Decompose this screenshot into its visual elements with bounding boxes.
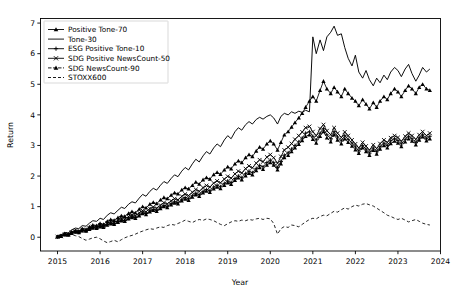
legend-label: Tone-30 [67,35,97,44]
x-tick-label: 2022 [346,257,365,266]
legend-label: Positive Tone-70 [68,25,128,34]
chart-canvas: 01234567 2015201620172018201920202021202… [0,0,453,291]
y-tick-label: 4 [30,111,35,120]
y-tick-label: 3 [30,141,35,150]
y-tick-label: 0 [30,233,35,242]
x-tick-label: 2023 [388,257,407,266]
y-tick-label: 5 [30,80,35,89]
chart-legend: Positive Tone-70Tone-30ESG Positive Tone… [44,21,170,83]
legend-label: STOXX600 [68,73,107,82]
legend-label: SDG NewsCount-90 [68,64,140,73]
x-tick-label: 2016 [90,257,109,266]
series-0 [55,79,432,238]
x-tick-label: 2019 [218,257,237,266]
y-tick-label: 2 [30,172,35,181]
x-tick-label: 2017 [133,257,152,266]
x-axis-label: Year [231,278,249,287]
legend-label: ESG Positive Tone-10 [68,44,145,53]
y-axis-label: Return [6,122,15,148]
y-axis-ticks: 01234567 [30,19,40,242]
x-tick-label: 2015 [48,257,67,266]
x-axis-ticks: 2015201620172018201920202021202220232024 [48,251,450,266]
legend-label: SDG Positive NewsCount-50 [68,54,170,63]
x-tick-label: 2024 [431,257,450,266]
x-tick-label: 2020 [261,257,280,266]
x-tick-label: 2021 [303,257,322,266]
y-tick-label: 7 [30,19,35,28]
y-tick-label: 1 [30,202,35,211]
chart-figure: 01234567 2015201620172018201920202021202… [0,0,453,291]
x-tick-label: 2018 [176,257,195,266]
y-tick-label: 6 [30,49,35,58]
